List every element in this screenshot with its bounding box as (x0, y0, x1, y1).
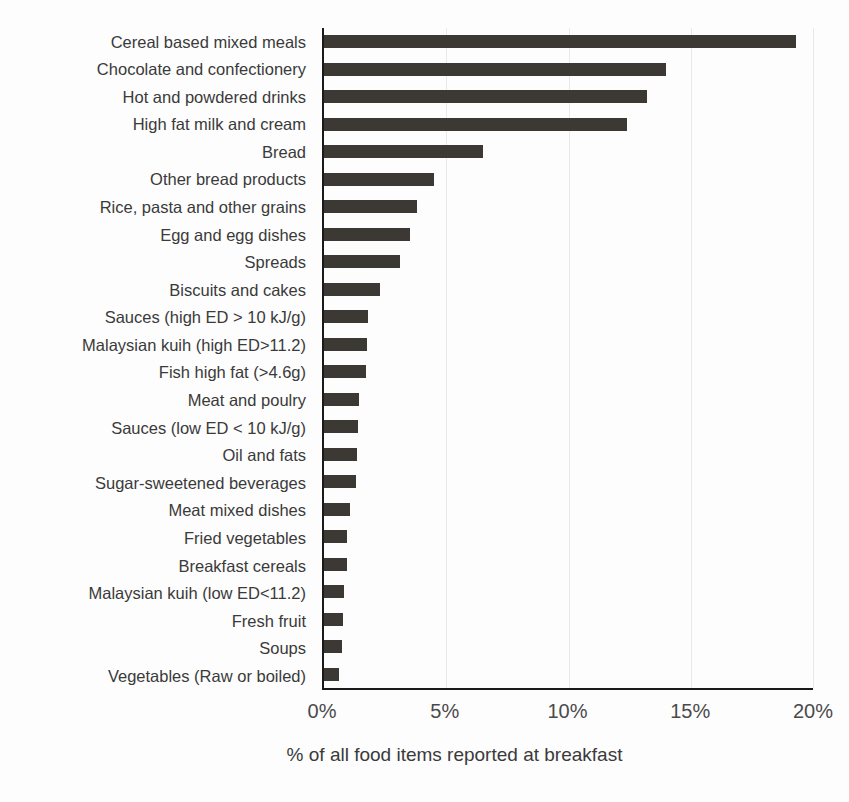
plot-area (322, 28, 813, 690)
x-axis-title-text: % of all food items reported at breakfas… (227, 744, 623, 766)
bar-row (324, 413, 813, 441)
x-axis-tick-label: 10% (547, 700, 587, 723)
bar-row (324, 358, 813, 386)
bar-row (324, 441, 813, 469)
bar-row (324, 468, 813, 496)
y-axis-label: Vegetables (Raw or boiled) (0, 662, 314, 690)
y-axis-label: Hot and powdered drinks (0, 83, 314, 111)
bar-row (324, 111, 813, 139)
bar (324, 475, 356, 488)
y-axis-label: Malaysian kuih (low ED<11.2) (0, 580, 314, 608)
bar (324, 255, 400, 268)
bar (324, 145, 483, 158)
bar-row (324, 331, 813, 359)
y-axis-label: Malaysian kuih (high ED>11.2) (0, 331, 314, 359)
bar (324, 200, 417, 213)
bar-row (324, 56, 813, 84)
horizontal-bar-chart: Cereal based mixed mealsChocolate and co… (0, 0, 849, 802)
bar (324, 420, 358, 433)
y-axis-label: Oil and fats (0, 442, 314, 470)
y-axis-label: Biscuits and cakes (0, 276, 314, 304)
bar-row (324, 386, 813, 414)
bar-row (324, 523, 813, 551)
bar (324, 35, 796, 48)
bar-row (324, 276, 813, 304)
bar-row (324, 606, 813, 634)
bar (324, 283, 380, 296)
bar (324, 530, 347, 543)
bar (324, 365, 366, 378)
bar (324, 63, 666, 76)
y-axis-label: Cereal based mixed meals (0, 28, 314, 56)
bar-row (324, 551, 813, 579)
x-axis-ticks: 0%5%10%15%20% (322, 700, 813, 726)
y-axis-label: Sauces (low ED < 10 kJ/g) (0, 414, 314, 442)
y-axis-label: Sauces (high ED > 10 kJ/g) (0, 304, 314, 332)
bar (324, 503, 350, 516)
bar-row (324, 28, 813, 56)
bar (324, 613, 343, 626)
bar-row (324, 303, 813, 331)
y-axis-label: Rice, pasta and other grains (0, 193, 314, 221)
y-axis-label: Fried vegetables (0, 524, 314, 552)
bar (324, 585, 344, 598)
x-axis-tick-label: 20% (793, 700, 833, 723)
y-axis-label: Meat and poulry (0, 387, 314, 415)
bar-row (324, 138, 813, 166)
bar (324, 90, 647, 103)
bar (324, 228, 410, 241)
bar-row (324, 248, 813, 276)
bar (324, 393, 359, 406)
bar (324, 338, 367, 351)
bar-row (324, 633, 813, 661)
bar (324, 448, 357, 461)
y-axis-label: High fat milk and cream (0, 111, 314, 139)
y-axis-label: Chocolate and confectionery (0, 56, 314, 84)
bar-row (324, 83, 813, 111)
y-axis-label: Egg and egg dishes (0, 221, 314, 249)
bar-rows (324, 28, 813, 688)
bar-row (324, 496, 813, 524)
y-axis-label: Fresh fruit (0, 607, 314, 635)
y-axis-label: Bread (0, 138, 314, 166)
bar (324, 558, 347, 571)
bar-row (324, 221, 813, 249)
y-axis-label: Breakfast cereals (0, 552, 314, 580)
bar (324, 173, 434, 186)
bar-row (324, 578, 813, 606)
x-axis-title: % of all food items reported at breakfas… (0, 744, 849, 766)
y-axis-label: Spreads (0, 249, 314, 277)
y-axis-labels: Cereal based mixed mealsChocolate and co… (0, 28, 314, 690)
y-axis-label: Soups (0, 635, 314, 663)
bar-row (324, 661, 813, 689)
y-axis-label: Sugar-sweetened beverages (0, 469, 314, 497)
x-axis-tick-label: 15% (670, 700, 710, 723)
gridline (813, 28, 814, 688)
y-axis-label: Fish high fat (>4.6g) (0, 359, 314, 387)
bar-row (324, 166, 813, 194)
bar (324, 310, 368, 323)
y-axis-label: Other bread products (0, 166, 314, 194)
bar-row (324, 193, 813, 221)
bar (324, 118, 627, 131)
bar (324, 668, 339, 681)
x-axis-tick-label: 0% (308, 700, 337, 723)
y-axis-label: Meat mixed dishes (0, 497, 314, 525)
x-axis-tick-label: 5% (430, 700, 459, 723)
bar (324, 640, 342, 653)
